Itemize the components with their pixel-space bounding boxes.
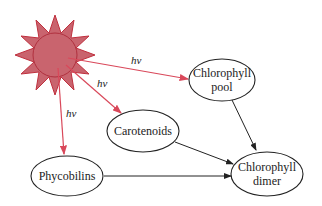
- svg-text:Chlorophyll: Chlorophyll: [238, 160, 297, 174]
- node-carotenoids: Carotenoids: [107, 110, 179, 152]
- hv-label-phycobilins: hν: [66, 107, 77, 119]
- arrow-pool-to-dimer: [232, 100, 256, 150]
- sun-icon: [15, 15, 95, 95]
- node-phycobilins: Phycobilins: [31, 156, 103, 196]
- hv-label-pool: hν: [131, 54, 142, 66]
- hv-label-carotenoids: hν: [97, 77, 108, 89]
- energy-transfer-diagram: hν hν hν Chlorophyll pool Carotenoids Ph…: [0, 0, 322, 206]
- svg-text:Carotenoids: Carotenoids: [114, 124, 172, 138]
- node-chlorophyll-pool: Chlorophyll pool: [189, 59, 255, 101]
- light-arrow-to-phycobilins: [58, 68, 64, 154]
- arrow-carotenoids-to-dimer: [175, 142, 233, 164]
- svg-text:Chlorophyll: Chlorophyll: [193, 66, 252, 80]
- node-chlorophyll-dimer: Chlorophyll dimer: [231, 152, 303, 196]
- diagram-canvas: hν hν hν Chlorophyll pool Carotenoids Ph…: [0, 0, 322, 206]
- light-arrow-to-pool: [68, 58, 188, 79]
- svg-text:pool: pool: [211, 80, 233, 94]
- svg-text:dimer: dimer: [253, 174, 281, 188]
- svg-text:Phycobilins: Phycobilins: [39, 169, 96, 183]
